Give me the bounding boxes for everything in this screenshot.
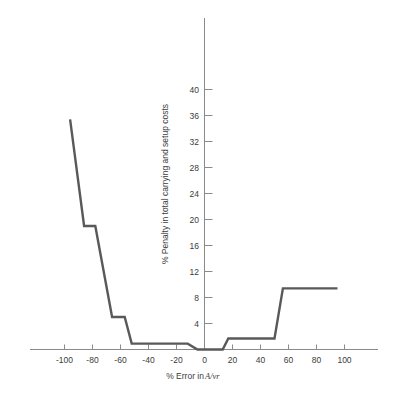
x-axis-title-symbol: A/vr: [204, 371, 220, 381]
y-tick-label: 8: [194, 293, 199, 303]
penalty-line-chart: -100 -80 -60 -40 -20 0 20 40 60 80 100 4…: [0, 0, 396, 395]
y-axis-tick-labels: 4 8 12 16 20 24 28 32 36 40: [190, 85, 200, 329]
x-axis-tick-labels: -100 -80 -60 -40 -20 0 20 40 60 80 100: [56, 355, 352, 365]
x-tick-label: -20: [170, 355, 183, 365]
x-tick-label: -80: [86, 355, 99, 365]
x-tick-label: 100: [337, 355, 351, 365]
x-axis-title: % Error in A/vr: [166, 371, 220, 381]
y-tick-label: 28: [190, 163, 200, 173]
y-tick-label: 4: [194, 319, 199, 329]
y-axis-ticks: [205, 90, 213, 324]
y-tick-label: 24: [190, 189, 200, 199]
x-tick-label: 80: [312, 355, 322, 365]
y-axis-title: % Penalty in total carrying and setup co…: [160, 104, 170, 264]
x-axis-title-prefix: % Error in: [166, 371, 204, 381]
penalty-curve: [70, 119, 337, 349]
x-tick-label: -100: [56, 355, 73, 365]
x-tick-label: 20: [228, 355, 238, 365]
x-tick-label: -40: [142, 355, 155, 365]
y-tick-label: 32: [190, 137, 200, 147]
y-tick-label: 20: [190, 215, 200, 225]
x-tick-label: 0: [202, 355, 207, 365]
chart-figure: -100 -80 -60 -40 -20 0 20 40 60 80 100 4…: [0, 0, 396, 395]
y-tick-label: 36: [190, 111, 200, 121]
y-tick-label: 16: [190, 241, 200, 251]
x-tick-label: 60: [284, 355, 294, 365]
y-tick-label: 40: [190, 85, 200, 95]
x-tick-label: 40: [256, 355, 266, 365]
y-tick-label: 12: [190, 267, 200, 277]
x-tick-label: -60: [114, 355, 127, 365]
